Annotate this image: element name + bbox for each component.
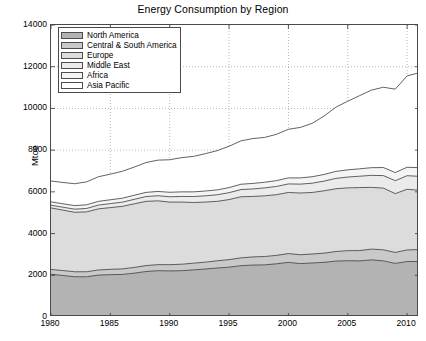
legend-item[interactable]: Central & South America (61, 40, 177, 50)
legend-item[interactable]: Europe (61, 50, 177, 60)
legend-item-label: Asia Pacific (87, 81, 129, 90)
legend-item-label: Europe (87, 51, 113, 60)
y-tick-label: 8000 (1, 144, 47, 154)
legend-item[interactable]: Asia Pacific (61, 80, 177, 90)
chart-figure: Energy Consumption by Region Mtoe 140001… (0, 0, 426, 341)
x-tick-label: 2005 (337, 318, 356, 328)
legend-item-label: Africa (87, 71, 108, 80)
legend-swatch-icon (61, 52, 83, 59)
y-tick-label: 6000 (1, 186, 47, 196)
x-tick-label: 2010 (397, 318, 416, 328)
legend-item-label: Central & South America (87, 41, 177, 50)
area-bands (51, 73, 418, 316)
x-tick-label: 1995 (219, 318, 238, 328)
legend-swatch-icon (61, 62, 83, 69)
x-axis-tick-labels: 1980198519901995200020052010 (0, 318, 426, 334)
y-tick-label: 14000 (1, 19, 47, 29)
legend-item[interactable]: Middle East (61, 60, 177, 70)
y-tick-label: 12000 (1, 61, 47, 71)
y-axis-tick-labels: 14000120001000080006000400020000 (0, 0, 47, 341)
x-tick-label: 1985 (100, 318, 119, 328)
y-tick-label: 4000 (1, 228, 47, 238)
y-tick-label: 10000 (1, 102, 47, 112)
legend-swatch-icon (61, 42, 83, 49)
chart-title: Energy Consumption by Region (0, 3, 426, 15)
x-tick-label: 1980 (40, 318, 59, 328)
legend-item-label: North America (87, 31, 139, 40)
x-tick-label: 2000 (278, 318, 297, 328)
x-tick-label: 1990 (159, 318, 178, 328)
legend-swatch-icon (61, 72, 83, 79)
legend-swatch-icon (61, 82, 83, 89)
legend-item[interactable]: Africa (61, 70, 177, 80)
legend-item[interactable]: North America (61, 30, 177, 40)
legend-item-label: Middle East (87, 61, 130, 70)
legend-swatch-icon (61, 32, 83, 39)
y-tick-label: 2000 (1, 269, 47, 279)
chart-legend: North AmericaCentral & South AmericaEuro… (58, 27, 181, 93)
